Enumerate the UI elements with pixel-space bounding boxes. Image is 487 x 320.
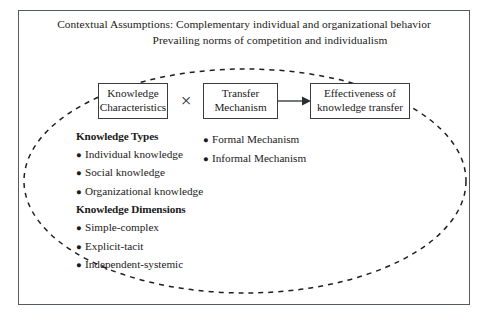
box-knowledge-line-1: Knowledge [107,87,159,101]
bullet-dot-icon: ● [203,151,212,169]
list-item: ● Formal Mechanism [203,131,333,150]
heading-knowledge-dimensions: Knowledge Dimensions [76,201,226,219]
multiplication-operator-icon: × [175,90,197,112]
bullet-dot-icon: ● [76,184,85,202]
list-item-label: Individual knowledge [85,146,183,164]
list-item-label: Explicit-tacit [85,238,143,256]
list-item-label: Simple-complex [85,219,159,237]
box-effect-line-1: Effectiveness of [324,87,396,101]
list-item-label: Independent-systemic [85,256,183,274]
box-transfer-line-2: Mechanism [214,101,266,115]
box-knowledge-line-2: Characteristics [100,101,166,115]
assumptions-line-1: Contextual Assumptions: Complementary in… [18,17,470,33]
box-transfer-mechanism[interactable]: Transfer Mechanism [203,83,278,119]
bullet-dot-icon: ● [76,220,85,238]
assumptions-line-2: Prevailing norms of competition and indi… [18,33,470,49]
bullet-dot-icon: ● [76,239,85,257]
list-item-label: Social knowledge [85,164,165,182]
bullet-dot-icon: ● [76,147,85,165]
list-item-label: Formal Mechanism [212,131,299,149]
list-item: ● Explicit-tacit [76,238,226,257]
box-transfer-line-1: Transfer [222,87,260,101]
box-knowledge-characteristics[interactable]: Knowledge Characteristics [98,83,168,119]
list-item: ● Informal Mechanism [203,150,333,169]
box-effect-line-2: knowledge transfer [317,101,403,115]
list-item-label: Informal Mechanism [212,150,306,168]
list-item: ● Organizational knowledge [76,183,226,202]
contextual-assumptions: Contextual Assumptions: Complementary in… [18,17,470,48]
list-item: ● Simple-complex [76,219,226,238]
diagram-canvas: Contextual Assumptions: Complementary in… [0,0,487,320]
transfer-mechanism-list: ● Formal Mechanism ● Informal Mechanism [203,131,333,168]
box-effectiveness-of-knowledge-transfer[interactable]: Effectiveness of knowledge transfer [310,83,410,119]
list-item-label: Organizational knowledge [85,183,203,201]
list-item: ● Independent-systemic [76,256,226,275]
bullet-dot-icon: ● [203,132,212,150]
bullet-dot-icon: ● [76,165,85,183]
bullet-dot-icon: ● [76,257,85,275]
arrow-right-icon [278,94,311,108]
